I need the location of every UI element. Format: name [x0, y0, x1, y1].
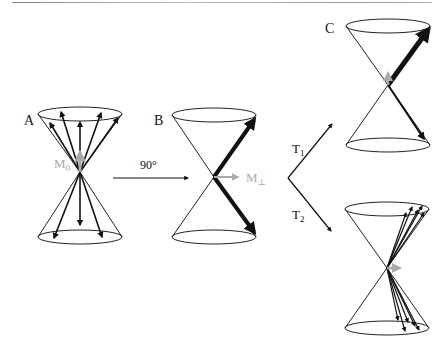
panel-c-t2: [345, 202, 429, 335]
cone-top-ellipse: [346, 19, 430, 33]
precession-diagram: A M0 90° B: [0, 0, 445, 345]
pulse-label: 90°: [140, 158, 157, 172]
cone-bottom-ellipse: [172, 230, 256, 244]
panel-b: B M⊥: [154, 108, 266, 244]
spin-bundle-down-arrow: [214, 177, 254, 232]
panel-c-t1: C: [325, 19, 430, 152]
m-perp-label: M⊥: [246, 170, 266, 187]
panel-a-label: A: [24, 113, 35, 128]
cone-bottom-ellipse: [345, 321, 429, 335]
panel-c-label: C: [325, 21, 334, 36]
spin-vectors-down: [54, 172, 102, 238]
spin-bundle-down-arrow: [388, 85, 424, 139]
panel-b-label: B: [154, 113, 163, 128]
pulse-arrow: 90°: [113, 158, 188, 178]
panel-a: A M0: [24, 107, 122, 244]
cone-bottom-ellipse: [38, 230, 122, 244]
t2-arrow: [288, 178, 331, 231]
relaxation-branches: T1 T2: [288, 124, 332, 231]
m0-label: M0: [54, 156, 71, 173]
t1-label: T1: [292, 141, 304, 158]
cone-top-ellipse: [38, 107, 122, 121]
cone-bottom-ellipse: [346, 138, 430, 152]
cone-top-ellipse: [172, 108, 256, 122]
spin-bundle-up-arrow: [388, 30, 428, 85]
dephasing-spins-up: [387, 206, 424, 268]
t2-label: T2: [292, 207, 304, 224]
spin-bundle-up-arrow: [214, 120, 254, 177]
